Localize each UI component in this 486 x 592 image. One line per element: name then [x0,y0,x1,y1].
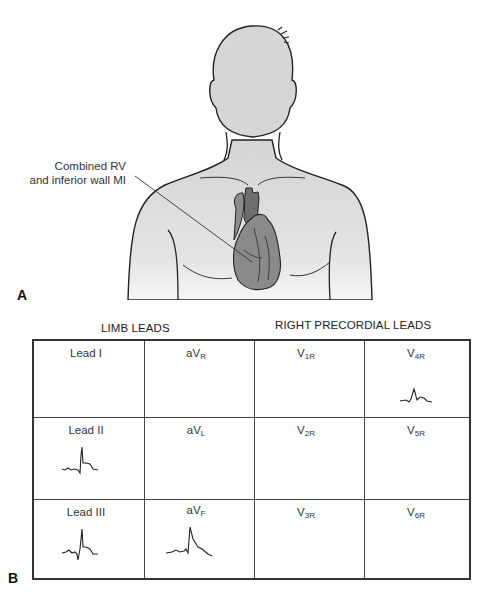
grid-divider [144,341,145,578]
lead-label-v1r: V1R [297,347,315,361]
lead-label-v4r: V4R [407,347,425,361]
lead-label-v6r: V6R [407,506,425,520]
right-precordial-leads-header: RIGHT PRECORDIAL LEADS [275,319,431,331]
grid-divider [254,341,255,578]
ecg-trace-lead-iii-icon [62,527,102,563]
lead-label-lead-i: Lead I [70,347,102,359]
callout-line-2: and inferior wall MI [29,173,126,187]
lead-label-avr: aVR [186,347,206,361]
panel-label-b: B [8,570,18,586]
limb-leads-header: LIMB LEADS [101,322,170,334]
lead-grid: Lead I aVR V1R V4R Lead II aVL V2R V5R L… [32,339,471,580]
torso-illustration [0,0,486,300]
lead-label-v5r: V5R [407,424,425,438]
lead-label-avf: aVF [187,504,206,518]
grid-divider [364,341,365,578]
lead-label-lead-ii: Lead II [68,424,103,436]
lead-label-v2r: V2R [297,424,315,438]
lead-label-avl: aVL [187,424,206,438]
grid-divider [34,417,469,418]
grid-divider [34,499,469,500]
lead-label-v3r: V3R [297,506,315,520]
panel-label-a: A [17,287,27,303]
callout-line-1: Combined RV [29,159,126,173]
lead-label-lead-iii: Lead III [67,506,105,518]
ecg-trace-avf-icon [166,527,216,559]
callout-label: Combined RV and inferior wall MI [29,159,126,187]
ecg-trace-v4r-icon [400,387,434,407]
ecg-trace-lead-ii-icon [62,445,102,475]
